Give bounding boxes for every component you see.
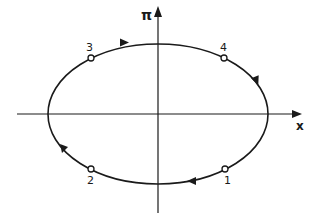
point-label-4: 4 — [220, 42, 227, 53]
point-label-3: 3 — [86, 42, 93, 53]
point-label-2: 2 — [87, 175, 94, 186]
direction-arrow-icon-bottom — [187, 177, 196, 185]
point-marker-4 — [221, 55, 227, 61]
y-axis-label: π — [141, 8, 152, 22]
direction-arrow-icon-top — [120, 39, 129, 47]
direction-arrow-icon-left — [60, 144, 68, 153]
y-axis-arrow-icon — [154, 6, 162, 17]
y-axis — [154, 6, 162, 213]
x-axis — [17, 110, 302, 118]
x-axis-arrow-icon — [292, 110, 302, 118]
point-marker-3 — [88, 55, 94, 61]
point-marker-2 — [88, 166, 94, 172]
point-label-1: 1 — [224, 175, 231, 186]
direction-arrow-icon-right — [250, 74, 259, 85]
x-axis-label: x — [296, 120, 304, 132]
point-marker-1 — [222, 166, 228, 172]
phase-space-diagram — [0, 0, 321, 220]
